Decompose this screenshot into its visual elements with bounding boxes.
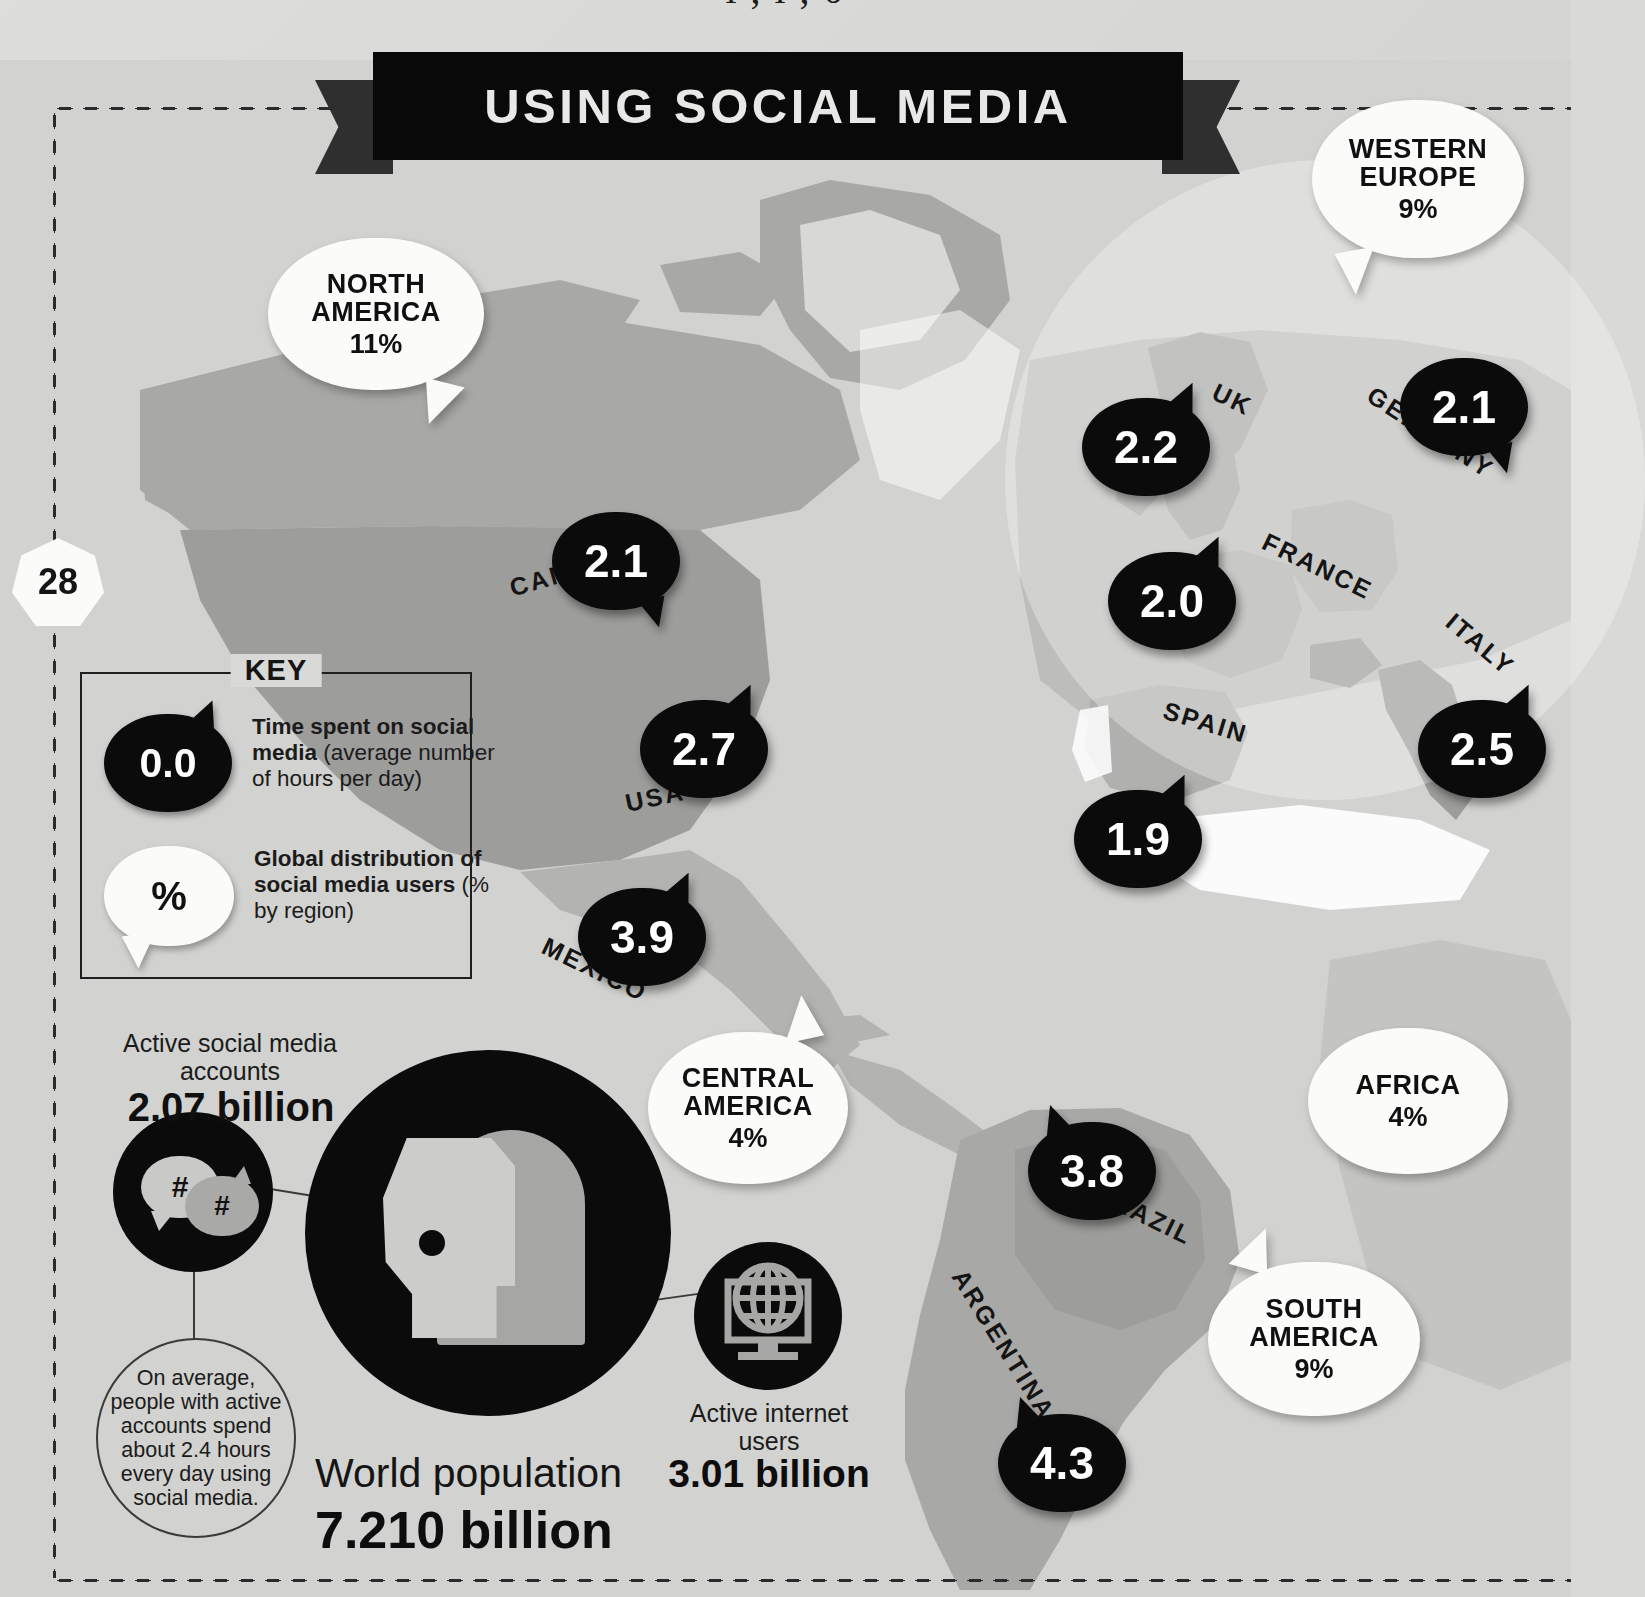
region-percent: 9% xyxy=(1398,195,1437,223)
percent-bubble-icon: % xyxy=(104,846,234,946)
key-item-hours: 0.0 Time spent on social media (average … xyxy=(104,714,502,812)
accounts-value: 2.07 billion xyxy=(96,1085,366,1130)
region-name-line: AMERICA xyxy=(311,298,441,326)
accounts-label: Active social media accounts xyxy=(110,1030,350,1085)
key-item-hours-text: Time spent on social media (average numb… xyxy=(252,714,502,792)
key-item-percent-text: Global distribution of social media user… xyxy=(254,846,504,924)
average-time-note: On average, people with active accounts … xyxy=(96,1338,296,1538)
region-bubble-north-america: NORTHAMERICA11% xyxy=(268,238,484,390)
hours-bubble-germany: 2.1 xyxy=(1400,358,1528,456)
key-item-percent: % Global distribution of social media us… xyxy=(104,846,504,946)
world-population-value: 7.210 billion xyxy=(315,1500,715,1560)
region-bubble-south-america: SOUTHAMERICA9% xyxy=(1208,1262,1420,1416)
dotted-border-bottom xyxy=(52,1578,1571,1583)
region-name-line: AMERICA xyxy=(683,1092,813,1120)
hours-bubble-france: 2.0 xyxy=(1108,552,1236,650)
key-title: KEY xyxy=(231,654,322,687)
region-bubble-central-america: CENTRALAMERICA4% xyxy=(648,1032,848,1184)
hours-bubble-uk: 2.2 xyxy=(1082,398,1210,496)
hours-bubble-spain: 1.9 xyxy=(1074,790,1202,888)
hours-bubble-mexico: 3.9 xyxy=(578,888,706,986)
hours-bubble-usa: 2.7 xyxy=(640,700,768,798)
internet-users-value: 3.01 billion xyxy=(654,1452,884,1496)
hashtag-bubble-2: # xyxy=(185,1176,259,1236)
connector-hash-to-note xyxy=(193,1272,195,1340)
region-name-line: AFRICA xyxy=(1356,1071,1461,1099)
region-bubble-western-europe: WESTERNEUROPE9% xyxy=(1312,100,1524,258)
hours-bubble-canada: 2.1 xyxy=(552,512,680,610)
region-name-line: AMERICA xyxy=(1249,1323,1379,1351)
region-percent: 4% xyxy=(728,1124,767,1152)
page-top-cut-text: l , l , 0 xyxy=(0,0,1571,10)
title-banner: USING SOCIAL MEDIA xyxy=(315,52,1240,174)
region-percent: 9% xyxy=(1294,1355,1333,1383)
region-name-line: NORTH xyxy=(327,270,426,298)
world-population-label: World population xyxy=(315,1450,665,1497)
page-title: USING SOCIAL MEDIA xyxy=(484,78,1072,134)
head-silhouette-front xyxy=(383,1138,515,1338)
region-percent: 4% xyxy=(1388,1103,1427,1131)
dotted-border-left xyxy=(52,108,57,1578)
region-name-line: WESTERN xyxy=(1349,135,1488,163)
hours-bubble-argentina: 4.3 xyxy=(998,1414,1126,1512)
region-name-line: EUROPE xyxy=(1359,163,1476,191)
key-legend-box: KEY 0.0 Time spent on social media (aver… xyxy=(80,672,472,979)
region-bubble-africa: AFRICA4% xyxy=(1308,1028,1508,1174)
key-percent-bold: Global distribution of social media user… xyxy=(254,846,481,897)
average-time-note-text: On average, people with active accounts … xyxy=(106,1366,286,1510)
hours-bubble-italy: 2.5 xyxy=(1418,700,1546,798)
internet-users-label: Active internet users xyxy=(664,1400,874,1455)
banner-body: USING SOCIAL MEDIA xyxy=(373,52,1183,160)
hashtag-icon: # # xyxy=(113,1112,273,1272)
head-front-eye xyxy=(419,1230,445,1256)
hours-bubble-icon: 0.0 xyxy=(104,714,232,812)
hours-bubble-brazil: 3.8 xyxy=(1028,1122,1156,1220)
globe-monitor-icon xyxy=(694,1242,842,1390)
region-name-line: SOUTH xyxy=(1266,1295,1363,1323)
region-name-line: CENTRAL xyxy=(682,1064,815,1092)
region-percent: 11% xyxy=(350,330,403,358)
